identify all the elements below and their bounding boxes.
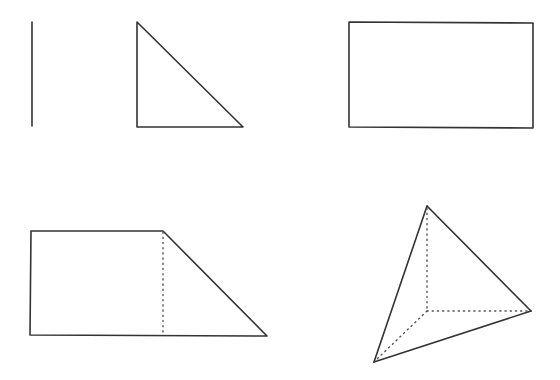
diagram-background (0, 0, 560, 380)
geometry-diagram (0, 0, 560, 380)
